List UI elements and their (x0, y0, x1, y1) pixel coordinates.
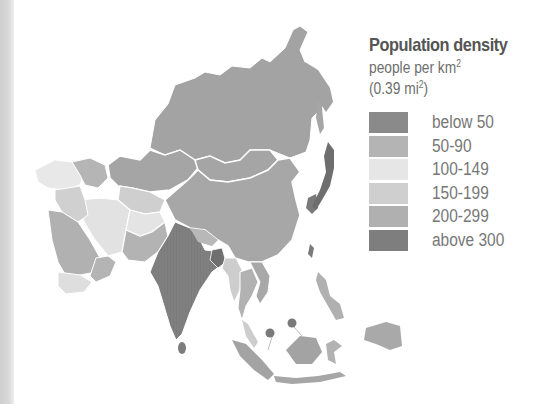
region-new-guinea (364, 322, 402, 350)
legend-item-100-149: 100-149 (369, 158, 535, 182)
region-thailand (238, 268, 258, 320)
legend-subtitle-text: ) (423, 80, 428, 97)
legend-label: 200-299 (432, 206, 489, 227)
region-sulawesi (326, 340, 342, 364)
legend-item-above-300: above 300 (369, 229, 535, 253)
legend-subtitle-text: people per km (369, 59, 456, 76)
legend-subtitle-conversion: (0.39 mi2) (369, 76, 512, 97)
region-japan (312, 142, 334, 210)
legend-item-200-299: 200-299 (369, 205, 535, 229)
legend-label: 100-149 (432, 159, 489, 180)
city-marker (288, 319, 297, 328)
city-marker (266, 329, 275, 338)
swatch-150-199 (369, 183, 408, 204)
legend-label: 50-90 (432, 136, 472, 157)
swatch-200-299 (369, 206, 408, 227)
region-taiwan (308, 244, 314, 258)
legend-item-150-199: 150-199 (369, 182, 535, 206)
region-philippines (316, 272, 344, 320)
legend-item-50-90: 50-90 (369, 135, 535, 159)
superscript: 2 (456, 58, 461, 69)
region-russia (150, 26, 330, 163)
region-java (274, 372, 346, 384)
legend-subtitle-text: (0.39 mi (369, 80, 419, 97)
region-borneo (286, 336, 322, 364)
region-sri-lanka (178, 342, 186, 354)
legend-label: above 300 (432, 230, 504, 251)
legend-item-below-50: below 50 (369, 111, 535, 135)
swatch-above-300 (369, 230, 408, 251)
swatch-50-90 (369, 136, 408, 157)
swatch-below-50 (369, 112, 408, 133)
legend-label: below 50 (432, 112, 494, 133)
legend-subtitle-units: people per km2 (369, 55, 512, 76)
region-yemen (58, 272, 92, 294)
legend-label: 150-199 (432, 183, 489, 204)
legend-items: below 50 50-90 100-149 150-199 200-299 a… (369, 111, 535, 252)
legend: Population density people per km2 (0.39 … (369, 34, 535, 252)
legend-title: Population density (369, 34, 512, 55)
swatch-100-149 (369, 159, 408, 180)
